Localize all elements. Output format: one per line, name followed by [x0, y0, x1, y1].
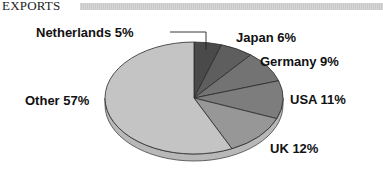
pie-chart: Netherlands 5%Japan 6%Germany 9%USA 11%U… — [0, 0, 383, 178]
label-netherlands: Netherlands 5% — [36, 25, 134, 40]
label-uk: UK 12% — [270, 141, 319, 156]
label-usa: USA 11% — [290, 92, 346, 107]
label-other: Other 57% — [25, 93, 90, 108]
label-japan: Japan 6% — [236, 30, 296, 45]
label-germany: Germany 9% — [260, 54, 339, 69]
